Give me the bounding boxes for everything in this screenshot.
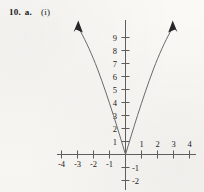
right-branch-arrowhead bbox=[168, 21, 177, 33]
left-branch-arrowhead bbox=[74, 21, 83, 33]
x-tick-label-2: 2 bbox=[155, 139, 159, 149]
y-tick-label-6: 6 bbox=[113, 72, 117, 82]
y-tick-label-7: 7 bbox=[113, 59, 117, 69]
y-tick-label-neg-2: -2 bbox=[132, 176, 139, 186]
x-tick-label-4: 4 bbox=[187, 139, 192, 149]
x-tick-label-neg-1: -1 bbox=[106, 159, 113, 169]
x-tick-label-neg-2: -2 bbox=[90, 159, 97, 169]
scanned-answer-page: 10.a.(i) bbox=[0, 0, 204, 192]
x-tick-label-neg-4: -4 bbox=[58, 159, 66, 169]
y-tick-label-5: 5 bbox=[113, 85, 117, 95]
y-tick-label-9: 9 bbox=[113, 33, 117, 43]
y-tick-label-8: 8 bbox=[113, 46, 117, 56]
x-tick-label-1: 1 bbox=[139, 139, 143, 149]
y-tick-label-1: 1 bbox=[113, 137, 117, 147]
y-tick-label-4: 4 bbox=[113, 98, 118, 108]
y-tick-label-neg-1: -1 bbox=[132, 163, 139, 173]
parabola-graph: 9 8 7 6 5 4 3 2 1 -1 -2 -4 -3 -2 -1 1 2 … bbox=[0, 0, 204, 192]
x-tick-label-3: 3 bbox=[171, 139, 175, 149]
x-tick-label-neg-3: -3 bbox=[74, 159, 81, 169]
